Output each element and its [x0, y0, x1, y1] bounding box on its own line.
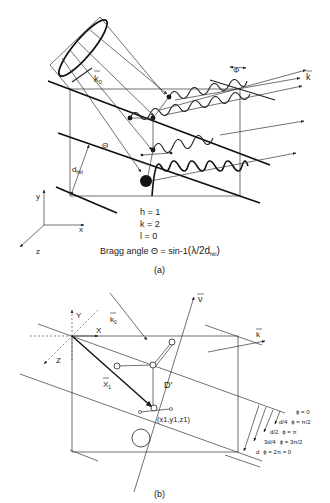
k0-label-b: k0: [110, 315, 117, 325]
miller-h: h = 1: [140, 207, 160, 217]
unit-cell-box-b: [72, 336, 238, 452]
figure-a: k0 k Φ: [20, 15, 312, 275]
atom-b: [150, 362, 156, 368]
axis-Y-label: Y: [76, 311, 82, 320]
lattice-plane-1: [48, 81, 270, 165]
axes-a: y x z: [20, 190, 84, 256]
k-label: k: [306, 72, 311, 82]
miller-l: l = 0: [140, 231, 157, 241]
k0-label: k0: [94, 74, 103, 85]
large-atom-b: [132, 429, 150, 447]
phase-3: 3d/4ϕ = 3π/2: [264, 439, 303, 445]
k-label-b: k: [256, 330, 261, 339]
plane-b2: [20, 374, 262, 461]
phase-1: d/4ϕ = π/2: [279, 419, 311, 425]
theta-label: Θ: [102, 141, 108, 150]
incident-beam: [50, 15, 167, 172]
scattered-wave-large: [152, 161, 248, 196]
bragg-diffraction-figure: k0 k Φ: [0, 0, 330, 503]
phase-2: d/2ϕ = π: [270, 429, 297, 435]
coordinate-label: (x1,y1,z1): [157, 415, 190, 424]
miller-k: k = 2: [140, 219, 160, 229]
axis-Z-label: Z: [56, 356, 61, 365]
atom-b: [114, 363, 120, 369]
bragg-equation: Bragg angle Θ = sin-1(λ/2dhkl): [100, 245, 220, 257]
axis-X-label: X: [96, 326, 102, 335]
caption-a: (a): [154, 265, 165, 275]
caption-b: (b): [154, 489, 165, 499]
scattered-wave-1: [130, 92, 250, 119]
nu-label: ν: [198, 294, 203, 304]
svg-text:z: z: [36, 247, 40, 256]
x1-label: X1: [103, 380, 111, 390]
figure-b: Y X Z k0 ν k X1 D' (x1,y1,z1): [20, 293, 311, 499]
atom-b: [151, 405, 157, 411]
phase-label: Φ: [233, 66, 239, 75]
D-label: D': [164, 380, 172, 390]
svg-text:y: y: [36, 192, 40, 201]
phase-4: dϕ = 2π = 0: [256, 449, 292, 455]
atom-b: [169, 339, 175, 345]
phase-0: ϕ = 0: [296, 409, 310, 415]
plane-b1: [38, 324, 285, 413]
beam-cross-section-ellipse: [53, 15, 113, 82]
lattice-plane-3: [56, 187, 117, 213]
scattered-wave-3: [153, 135, 213, 152]
svg-text:x: x: [79, 225, 83, 234]
